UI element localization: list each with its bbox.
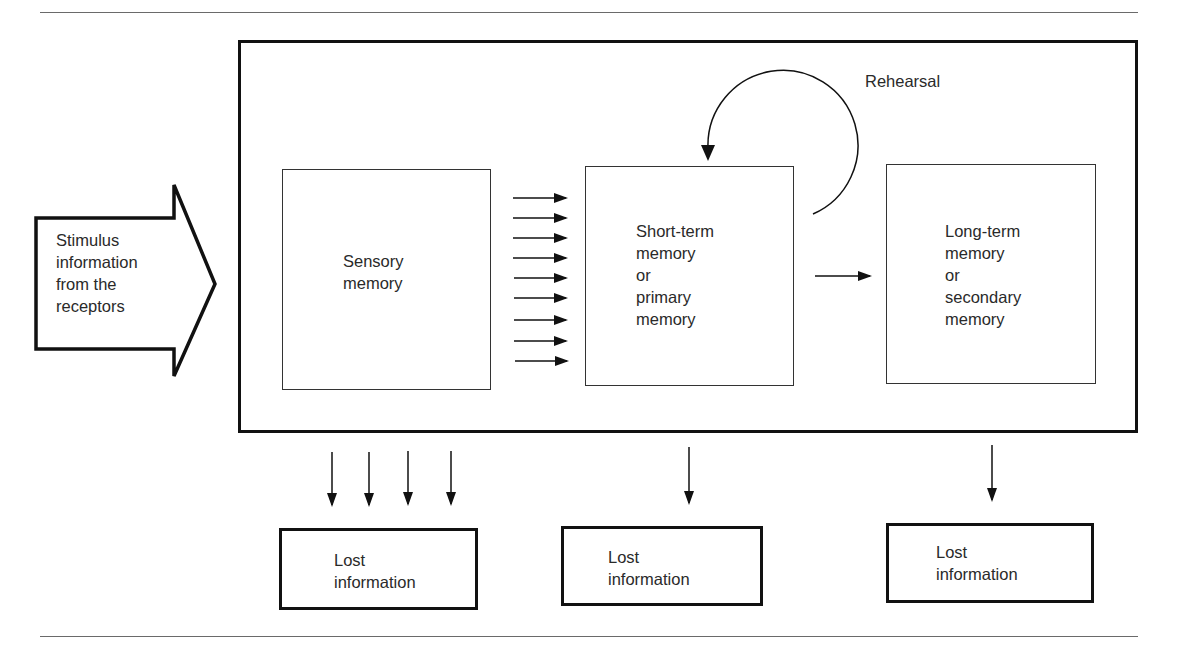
lost-information-label-sensory: Lost information bbox=[334, 549, 416, 593]
sensory-memory-label: Sensory memory bbox=[343, 250, 404, 294]
stimulus-label: Stimulus information from the receptors bbox=[56, 229, 138, 317]
sensory-to-lost-arrows bbox=[332, 451, 451, 505]
rehearsal-label: Rehearsal bbox=[865, 70, 940, 92]
lost-information-label-short-term: Lost information bbox=[608, 546, 690, 590]
long-term-memory-label: Long-term memory or secondary memory bbox=[945, 220, 1021, 330]
lost-information-label-long-term: Lost information bbox=[936, 541, 1018, 585]
rehearsal-loop-arrow bbox=[701, 70, 858, 214]
sensory-to-short-term-arrows bbox=[513, 198, 567, 361]
short-term-memory-label: Short-term memory or primary memory bbox=[636, 220, 714, 330]
